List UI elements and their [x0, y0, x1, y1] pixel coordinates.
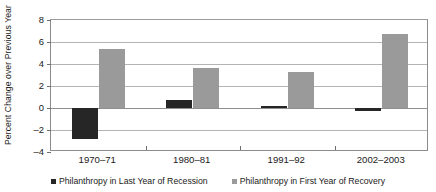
x-axis-tick-labels: 1970–711980–811991–922002–2003 — [50, 153, 428, 167]
x-axis-tick-label: 1991–92 — [239, 153, 334, 166]
legend-label: Philanthropy in Last Year of Recession — [59, 176, 208, 186]
legend-entry: Philanthropy in Last Year of Recession — [51, 176, 208, 186]
y-axis-tick-label: 2 — [22, 81, 44, 90]
bar — [355, 108, 381, 111]
legend-label: Philanthropy in First Year of Recovery — [240, 176, 385, 186]
square-marker-icon — [232, 179, 237, 184]
bar-group — [146, 20, 241, 150]
x-axis-tick-label: 1970–71 — [50, 153, 145, 166]
bar-group — [335, 20, 430, 150]
bar — [99, 49, 125, 108]
y-axis-tick-label: 4 — [22, 59, 44, 68]
y-axis-tick-label: 0 — [22, 103, 44, 112]
legend-entry: Philanthropy in First Year of Recovery — [232, 176, 385, 186]
bar — [382, 34, 408, 108]
y-axis-tick-label: 8 — [22, 15, 44, 24]
bar — [72, 108, 98, 139]
bar — [193, 68, 219, 108]
x-axis-tick-label: 2002–2003 — [334, 153, 429, 166]
bar — [261, 106, 287, 108]
bar-group — [51, 20, 146, 150]
bar — [166, 100, 192, 108]
y-axis-title: Percent Change over Previous Year — [1, 0, 15, 150]
bar-group — [240, 20, 335, 150]
y-axis-tick-label: 6 — [22, 37, 44, 46]
bars-layer — [51, 20, 427, 150]
square-marker-icon — [51, 179, 56, 184]
chart-legend: Philanthropy in Last Year of RecessionPh… — [0, 173, 436, 189]
y-axis-tick-label: –2 — [22, 125, 44, 134]
plot-area — [50, 19, 428, 151]
bar — [288, 72, 314, 108]
x-axis-tick-label: 1980–81 — [145, 153, 240, 166]
bar-chart: Percent Change over Previous Year 86420–… — [0, 0, 436, 192]
y-axis-tick-label: –4 — [22, 147, 44, 156]
y-axis-tick-labels: 86420–2–4 — [14, 0, 44, 192]
